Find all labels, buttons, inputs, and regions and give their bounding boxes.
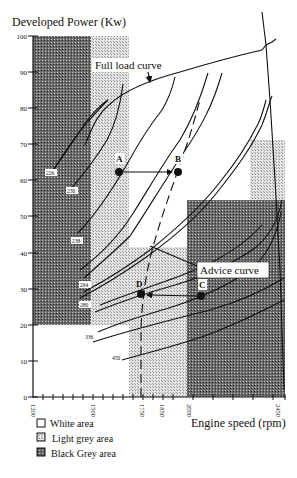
svg-text:450: 450 <box>112 355 121 361</box>
svg-text:40: 40 <box>20 250 28 258</box>
svg-text:30: 30 <box>20 286 28 294</box>
svg-text:C: C <box>199 280 206 290</box>
svg-text:0: 0 <box>24 394 28 402</box>
svg-text:1200: 1200 <box>30 404 37 417</box>
svg-text:280: 280 <box>80 302 89 308</box>
y-tick-labels: 0 10 20 30 40 50 60 70 80 90 100 <box>17 33 28 402</box>
legend-swatch-light <box>37 433 45 441</box>
svg-text:80: 80 <box>20 105 28 113</box>
point-d <box>137 290 145 298</box>
y-axis-label: Developed Power (Kw) <box>12 15 126 29</box>
svg-text:1750: 1750 <box>139 404 146 417</box>
point-b <box>174 168 182 176</box>
legend-swatch-dark <box>37 448 45 456</box>
legend: White area Light grey area Black Grey ar… <box>37 418 117 459</box>
full-load-pointer <box>148 72 150 82</box>
svg-text:90: 90 <box>20 69 28 77</box>
legend-label-dark: Black Grey area <box>51 448 117 459</box>
legend-label-light: Light grey area <box>52 433 114 444</box>
svg-text:D: D <box>136 279 143 289</box>
advice-label: Advice curve <box>200 264 259 276</box>
svg-text:238: 238 <box>72 238 81 244</box>
light-area-right <box>250 140 285 200</box>
svg-text:10: 10 <box>20 358 28 366</box>
svg-text:1500: 1500 <box>90 404 97 417</box>
point-c <box>197 292 205 300</box>
svg-text:B: B <box>175 154 181 164</box>
svg-text:20: 20 <box>20 322 28 330</box>
x-axis-label: Engine speed (rpm) <box>191 416 286 430</box>
chart: Developed Power (Kw) 0 10 20 30 40 50 60… <box>0 0 297 478</box>
svg-text:60: 60 <box>20 177 28 185</box>
legend-label-white: White area <box>50 418 94 429</box>
shaded-areas <box>33 36 285 397</box>
svg-text:230: 230 <box>67 188 76 194</box>
svg-text:264: 264 <box>80 282 89 288</box>
svg-text:226: 226 <box>46 170 55 176</box>
light-area-middle <box>129 247 187 397</box>
svg-text:1850: 1850 <box>159 404 166 417</box>
point-a <box>115 168 123 176</box>
legend-swatch-white <box>37 419 45 427</box>
full-load-label: Full load curve <box>95 59 162 71</box>
svg-text:A: A <box>116 154 123 164</box>
svg-text:70: 70 <box>20 141 28 149</box>
svg-text:336: 336 <box>85 334 94 340</box>
svg-text:50: 50 <box>20 213 28 221</box>
svg-text:100: 100 <box>17 33 28 41</box>
